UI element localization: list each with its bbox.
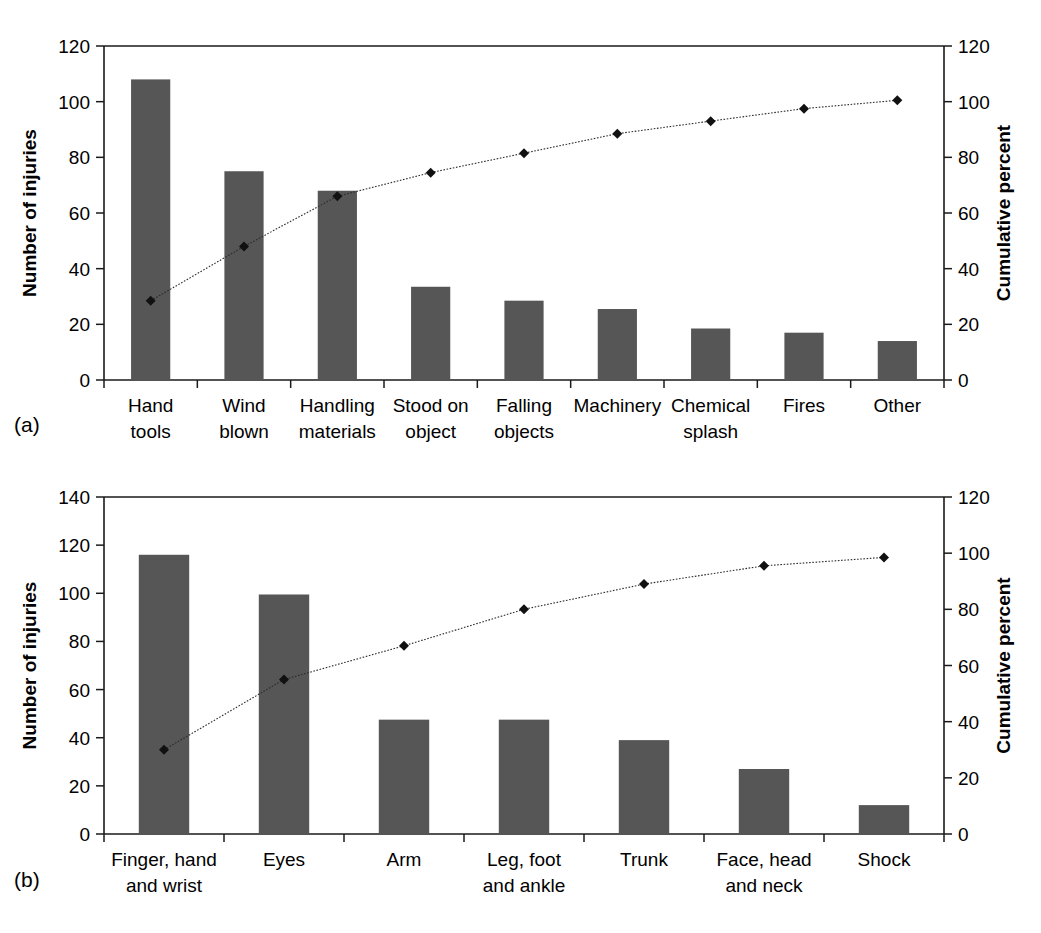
bar-b-3[interactable] [499, 720, 549, 834]
x-axis-category-label-a-0: Handtools [128, 395, 173, 442]
panel-label-a: (a) [14, 413, 40, 436]
bar-b-5[interactable] [739, 769, 789, 834]
bar-b-1[interactable] [259, 594, 309, 834]
x-axis-category-label-b-5: Face, headand neck [716, 849, 811, 896]
category-line-2: and neck [725, 875, 803, 896]
bar-a-4[interactable] [504, 301, 543, 380]
left-axis-tick-label: 100 [58, 92, 90, 113]
bar-b-4[interactable] [619, 740, 669, 834]
category-line-1: Handling [300, 395, 375, 416]
x-axis-category-label-a-8: Other [874, 395, 922, 416]
cumulative-marker-a-4[interactable] [519, 148, 529, 158]
category-line-1: Other [874, 395, 922, 416]
left-axis-tick-label: 20 [69, 314, 90, 335]
category-line-1: Falling [496, 395, 552, 416]
right-axis-tick-label: 40 [958, 259, 979, 280]
category-line-1: Leg, foot [487, 849, 562, 870]
pareto-chart-b: 020406080100120140020406080100120Number … [0, 460, 1041, 933]
x-axis-category-label-a-5: Machinery [574, 395, 662, 416]
left-axis-tick-label: 80 [69, 631, 90, 652]
left-axis-tick-label: 60 [69, 203, 90, 224]
left-axis-tick-label: 40 [69, 728, 90, 749]
left-axis-tick-label: 100 [58, 583, 90, 604]
chart-a-canvas: 020406080100120020406080100120Number of … [0, 0, 1041, 460]
x-axis-category-label-b-1: Eyes [263, 849, 305, 870]
category-line-1: Hand [128, 395, 173, 416]
bar-b-6[interactable] [859, 805, 909, 834]
category-line-2: and wrist [126, 875, 203, 896]
x-axis-category-label-b-0: Finger, handand wrist [111, 849, 217, 896]
bar-a-5[interactable] [598, 309, 637, 380]
left-axis-title: Number of injuries [19, 129, 40, 297]
bar-a-2[interactable] [318, 191, 357, 380]
bar-b-2[interactable] [379, 720, 429, 834]
cumulative-marker-a-5[interactable] [612, 129, 622, 139]
chart-b-canvas: 020406080100120140020406080100120Number … [0, 460, 1041, 933]
cumulative-marker-b-3[interactable] [519, 604, 529, 614]
x-axis-category-label-b-2: Arm [387, 849, 422, 870]
category-line-2: splash [683, 421, 738, 442]
right-axis-tick-label: 120 [958, 487, 990, 508]
cumulative-marker-a-8[interactable] [892, 95, 902, 105]
cumulative-marker-b-2[interactable] [399, 641, 409, 651]
bar-b-0[interactable] [139, 555, 189, 834]
right-axis-tick-label: 100 [958, 543, 990, 564]
left-axis-title: Number of injuries [19, 582, 40, 750]
x-axis-category-label-b-3: Leg, footand ankle [483, 849, 565, 896]
cumulative-marker-b-5[interactable] [759, 561, 769, 571]
right-axis-tick-label: 20 [958, 314, 979, 335]
cumulative-marker-b-4[interactable] [639, 579, 649, 589]
category-line-2: materials [299, 421, 376, 442]
category-line-1: Fires [783, 395, 825, 416]
right-axis-title: Cumulative percent [993, 124, 1014, 301]
cumulative-marker-a-7[interactable] [799, 104, 809, 114]
right-axis-title: Cumulative percent [993, 577, 1014, 754]
panel-label-b: (b) [14, 868, 40, 891]
right-axis-tick-label: 60 [958, 203, 979, 224]
bar-a-8[interactable] [878, 341, 917, 380]
cumulative-marker-a-6[interactable] [706, 116, 716, 126]
right-axis-tick-label: 60 [958, 656, 979, 677]
right-axis-tick-label: 0 [958, 824, 969, 845]
category-line-2: and ankle [483, 875, 565, 896]
category-line-1: Stood on [393, 395, 469, 416]
left-axis-tick-label: 120 [58, 535, 90, 556]
category-line-1: Machinery [574, 395, 662, 416]
category-line-2: object [405, 421, 456, 442]
x-axis-category-label-a-3: Stood onobject [393, 395, 469, 442]
right-axis-tick-label: 40 [958, 712, 979, 733]
bar-a-0[interactable] [131, 79, 170, 380]
x-axis-category-label-a-1: Windblown [219, 395, 269, 442]
pareto-figure: 020406080100120020406080100120Number of … [0, 0, 1041, 933]
left-axis-tick-label: 20 [69, 776, 90, 797]
category-line-1: Trunk [620, 849, 668, 870]
bar-a-1[interactable] [224, 171, 263, 380]
right-axis-tick-label: 0 [958, 370, 969, 391]
left-axis-tick-label: 0 [79, 824, 90, 845]
x-axis-category-label-b-4: Trunk [620, 849, 668, 870]
x-axis-category-label-a-4: Fallingobjects [494, 395, 554, 442]
category-line-2: tools [131, 421, 171, 442]
pareto-chart-a: 020406080100120020406080100120Number of … [0, 0, 1041, 460]
category-line-1: Chemical [671, 395, 750, 416]
cumulative-marker-a-3[interactable] [426, 168, 436, 178]
bar-a-7[interactable] [784, 333, 823, 380]
bar-a-3[interactable] [411, 287, 450, 380]
right-axis-tick-label: 120 [958, 36, 990, 57]
category-line-2: objects [494, 421, 554, 442]
right-axis-tick-label: 80 [958, 147, 979, 168]
category-line-1: Face, head [716, 849, 811, 870]
x-axis-category-label-a-6: Chemicalsplash [671, 395, 750, 442]
right-axis-tick-label: 20 [958, 768, 979, 789]
category-line-1: Wind [222, 395, 265, 416]
cumulative-marker-b-6[interactable] [879, 552, 889, 562]
category-line-1: Shock [858, 849, 911, 870]
right-axis-tick-label: 100 [958, 92, 990, 113]
bar-a-6[interactable] [691, 329, 730, 380]
x-axis-category-label-a-7: Fires [783, 395, 825, 416]
x-axis-category-label-b-6: Shock [858, 849, 911, 870]
left-axis-tick-label: 140 [58, 487, 90, 508]
x-axis-category-label-a-2: Handlingmaterials [299, 395, 376, 442]
category-line-1: Eyes [263, 849, 305, 870]
left-axis-tick-label: 120 [58, 36, 90, 57]
